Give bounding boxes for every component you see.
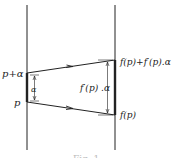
figure-caption: Fig. 1 (73, 154, 99, 158)
label-fprime-alpha: f′(p) .α (79, 83, 110, 93)
label-p-plus-alpha: p+α (2, 68, 24, 79)
mapping-diagram: p+α p α f(p)+f′(p).α f(p) f′(p) .α Fig. … (0, 0, 175, 158)
label-alpha: α (31, 85, 37, 94)
label-p: p (14, 97, 21, 108)
label-f-p: f(p) (119, 110, 137, 120)
label-f-p-plus-fprime-alpha: f(p)+f′(p).α (119, 57, 171, 67)
